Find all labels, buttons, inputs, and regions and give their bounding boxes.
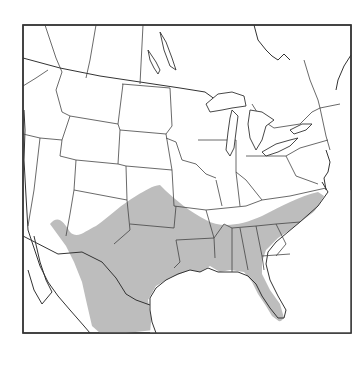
range-map	[0, 0, 364, 369]
